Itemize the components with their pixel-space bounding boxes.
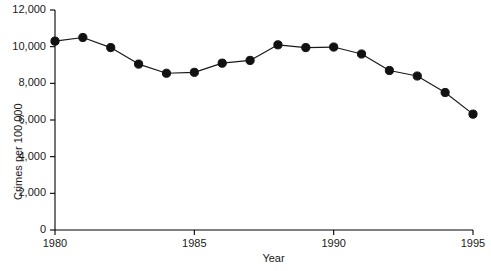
crime-rate-line-chart: Crimes per 100,000 Year 02,0004,0006,000… xyxy=(0,0,491,271)
y-tick-label: 2,000 xyxy=(0,187,46,198)
data-point-marker xyxy=(162,69,170,77)
data-point-marker xyxy=(190,68,198,76)
data-point-marker xyxy=(274,41,282,49)
data-point-marker xyxy=(302,43,310,51)
y-tick-label: 8,000 xyxy=(0,77,46,88)
y-tick-label: 6,000 xyxy=(0,114,46,125)
data-point-marker xyxy=(441,88,449,96)
data-point-marker xyxy=(218,59,226,67)
data-point-marker xyxy=(51,37,59,45)
y-tick-label: 4,000 xyxy=(0,151,46,162)
x-tick-label: 1985 xyxy=(164,238,224,249)
x-tick-label: 1995 xyxy=(443,238,491,249)
data-point-marker xyxy=(107,43,115,51)
data-point-marker xyxy=(246,56,254,64)
data-point-marker xyxy=(413,72,421,80)
data-point-marker xyxy=(79,33,87,41)
x-axis-label: Year xyxy=(28,252,491,264)
plot-area xyxy=(0,0,491,271)
y-tick-label: 0 xyxy=(0,224,46,235)
data-point-marker xyxy=(330,43,338,51)
y-tick-label: 12,000 xyxy=(0,4,46,15)
y-tick-label: 10,000 xyxy=(0,41,46,52)
data-point-marker xyxy=(135,60,143,68)
x-tick-label: 1990 xyxy=(304,238,364,249)
x-tick-label: 1980 xyxy=(25,238,85,249)
series-line xyxy=(55,38,473,115)
data-point-marker xyxy=(357,50,365,58)
data-point-marker xyxy=(469,110,477,118)
data-point-marker xyxy=(385,66,393,74)
